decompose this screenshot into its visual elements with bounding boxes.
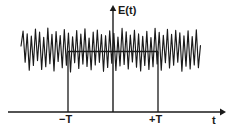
waveform-figure: E(t) t −T +T	[0, 0, 229, 133]
y-axis-label: E(t)	[118, 5, 136, 16]
tick-label-plus-t: +T	[149, 114, 162, 125]
plot-canvas	[0, 0, 229, 133]
x-axis-arrow-icon	[220, 109, 226, 116]
x-axis-label: t	[212, 115, 216, 126]
y-axis-arrow-icon	[110, 5, 117, 11]
signal-waveform	[21, 28, 200, 72]
x-axis-group	[8, 109, 226, 116]
tick-label-minus-t: −T	[59, 114, 72, 125]
